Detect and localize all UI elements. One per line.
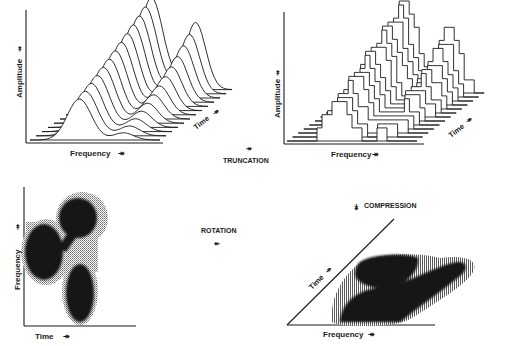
rotation-label: ROTATION (201, 227, 237, 234)
frequency-label: Frequency (323, 330, 364, 339)
compression-arrow-icon: ↡ (353, 203, 360, 212)
compression-transform: ↡ COMPRESSION (353, 202, 417, 212)
frequency-arrow-icon: ↠ (14, 224, 21, 230)
figure-canvas: Amplitude ↠ Frequency ↠ Time ↠ Amplitude… (0, 0, 506, 346)
rotation-transform: ROTATION ↞ (201, 227, 237, 247)
panel-spectrogram: Frequency ↠ Time ↠ (13, 187, 136, 341)
amplitude-arrow-icon: ↠ (16, 46, 23, 52)
time-label: Time (35, 332, 54, 341)
panel-sheared-spectrogram: Time ↠ Frequency ↠ (287, 219, 475, 339)
time-label: Time (447, 122, 466, 140)
time-arrow-icon: ↠ (464, 114, 475, 125)
compression-label: COMPRESSION (364, 202, 417, 209)
time-label: Time (307, 273, 326, 292)
frequency-label: Frequency (70, 149, 111, 158)
frequency-label: Frequency (13, 249, 22, 290)
rotation-arrow-icon: ↞ (214, 240, 220, 247)
frequency-label: Frequency (331, 150, 372, 159)
amplitude-arrow-icon: ↠ (274, 70, 281, 76)
time-arrow-icon: ↠ (63, 332, 70, 341)
amplitude-label: Amplitude (15, 58, 24, 98)
panel-quantized-waterfall: Amplitude ↠ Frequency ↠ Time ↠ (273, 1, 484, 159)
panel-smooth-waterfall: Amplitude ↠ Frequency ↠ Time ↠ (15, 0, 232, 158)
truncation-label: TRUNCATION (223, 157, 269, 164)
frequency-arrow-icon: ↠ (118, 149, 125, 158)
time-arrow-icon: ↠ (323, 264, 334, 275)
time-label: Time (192, 114, 211, 132)
time-arrow-icon: ↠ (211, 106, 222, 117)
quantized-curves (287, 1, 484, 141)
frequency-arrow-icon: ↠ (368, 330, 375, 339)
truncation-arrow-icon: ↠ (246, 145, 252, 152)
frequency-arrow-icon: ↠ (372, 150, 379, 159)
truncation-transform: ↠ TRUNCATION (223, 145, 269, 164)
amplitude-label: Amplitude (273, 78, 282, 118)
